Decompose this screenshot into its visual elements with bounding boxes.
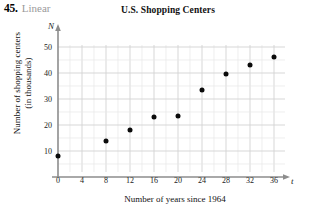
data-point <box>272 55 277 60</box>
figure-panel: 45. Linear U.S. Shopping Centers N t 102… <box>0 0 310 215</box>
y-axis-title-line1: Number of shopping centers <box>12 8 23 158</box>
y-axis-title-line2: (in thousands) <box>23 8 34 158</box>
data-point <box>224 72 229 77</box>
x-tick-label: 0 <box>48 176 68 185</box>
x-axis-title: Number of years since 1964 <box>60 194 290 204</box>
data-point <box>104 138 109 143</box>
x-tick-label: 36 <box>264 176 284 185</box>
data-point <box>128 128 133 133</box>
x-tick-label: 28 <box>216 176 236 185</box>
x-tick-label: 32 <box>240 176 260 185</box>
x-tick-labels: 04812162024283236 <box>0 0 310 215</box>
y-axis-title: Number of shopping centers (in thousands… <box>12 8 34 158</box>
data-point <box>200 87 205 92</box>
x-tick-label: 24 <box>192 176 212 185</box>
data-point <box>152 115 157 120</box>
x-tick-label: 16 <box>144 176 164 185</box>
data-point <box>176 113 181 118</box>
x-tick-label: 8 <box>96 176 116 185</box>
x-tick-label: 4 <box>72 176 92 185</box>
data-point <box>56 154 61 159</box>
data-point <box>248 63 253 68</box>
x-tick-label: 20 <box>168 176 188 185</box>
x-tick-label: 12 <box>120 176 140 185</box>
